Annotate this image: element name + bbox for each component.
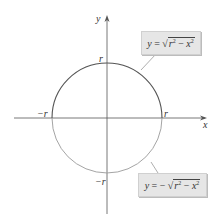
negative-sign: −	[160, 180, 168, 191]
minus-sign: −	[181, 180, 192, 191]
y-intercept-negative-label: −r	[95, 177, 106, 187]
minus-sign: −	[176, 38, 187, 49]
exponent: 2	[196, 180, 199, 186]
x-intercept-positive-label: r	[164, 109, 168, 119]
x-intercept-negative-label: −r	[37, 109, 48, 119]
radicand: r2 − x2	[168, 37, 195, 49]
lower-callout-line	[151, 162, 158, 173]
x-axis-label: x	[203, 120, 207, 130]
upper-equation-label: y = √r2 − x2	[141, 31, 201, 55]
radicand: r2 − x2	[173, 179, 200, 191]
equals-sign: =	[152, 38, 163, 49]
equals-sign: =	[149, 180, 160, 191]
exponent: 2	[191, 38, 194, 44]
y-axis-label: y	[96, 14, 100, 24]
y-intercept-positive-label: r	[99, 54, 103, 64]
upper-callout-line	[141, 54, 156, 70]
lower-equation-label: y = − √r2 − x2	[138, 173, 207, 197]
